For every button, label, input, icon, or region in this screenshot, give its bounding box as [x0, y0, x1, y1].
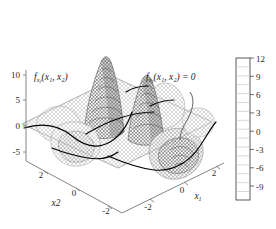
z-tick-5: 5 [16, 95, 21, 105]
x1-tick-0: 0 [180, 185, 185, 195]
z-tick-10: 10 [11, 70, 21, 80]
colorbar-tick-3: 3 [256, 108, 261, 118]
x2-axis-label: x2 [51, 198, 61, 208]
figure-root: 10 5 0 -5 2 0 -2 x2 -2 0 2 x1 fx2(x₁, x₂… [0, 0, 276, 229]
colorbar-tick-6: 6 [256, 90, 261, 100]
surface-plot: 10 5 0 -5 2 0 -2 x2 -2 0 2 x1 fx2(x₁, x₂… [0, 0, 232, 229]
colorbar-tick-0: 0 [256, 127, 261, 137]
colorbar-tick-12: 12 [256, 54, 265, 64]
x2-tick-neg2: -2 [102, 206, 110, 216]
colorbar-tick-neg3: -3 [256, 145, 264, 155]
x1-tick-neg2: -2 [144, 202, 152, 212]
z-axis-ticks [23, 75, 26, 152]
colorbar-ticks [250, 58, 254, 186]
colorbar-tick-9: 9 [256, 72, 261, 82]
z-tick-neg5: -5 [13, 147, 21, 157]
colorbar[interactable]: 12 9 6 3 0 -3 -6 -9 [228, 44, 276, 214]
x1-axis-label: x1 [193, 191, 201, 202]
x2-tick-2: 2 [39, 170, 44, 180]
z-tick-0: 0 [16, 121, 21, 131]
colorbar-tick-neg9: -9 [256, 182, 264, 192]
x1-tick-2: 2 [212, 168, 217, 178]
colorbar-tick-neg6: -6 [256, 163, 264, 173]
contour-function-label: fx2(x₁, x₂) = 0 [146, 72, 196, 84]
x2-tick-0: 0 [72, 188, 77, 198]
surface-function-label: fx2(x₁, x₂) [34, 72, 68, 84]
